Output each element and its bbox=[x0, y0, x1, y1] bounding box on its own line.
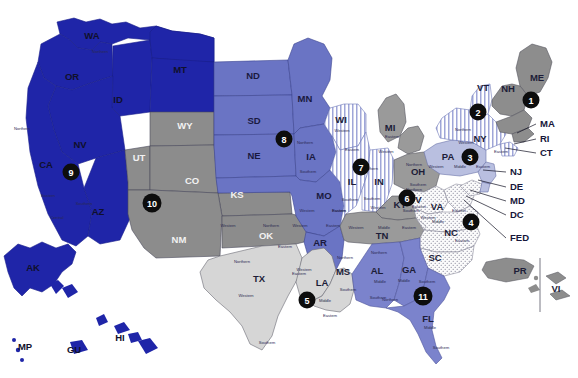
state-label-fl: FL bbox=[422, 313, 434, 324]
state-label-mp: MP bbox=[18, 341, 33, 352]
district-label-57: Eastern bbox=[494, 149, 509, 154]
district-label-4: Central bbox=[50, 215, 63, 220]
district-label-1: Eastern bbox=[41, 193, 56, 198]
district-label-28: Northern bbox=[382, 297, 399, 302]
state-label-oh: OH bbox=[411, 166, 425, 177]
badge-number-6: 6 bbox=[404, 194, 409, 204]
circuit-badge-9[interactable]: 9 bbox=[63, 164, 80, 181]
district-label-27: Southern bbox=[419, 279, 436, 284]
state-label-vi: VI bbox=[552, 283, 561, 294]
circuit-badge-7[interactable]: 7 bbox=[353, 159, 370, 176]
district-label-37: Eastern bbox=[385, 134, 400, 139]
state-label-ks: KS bbox=[230, 189, 243, 200]
district-label-54: Eastern bbox=[476, 164, 491, 169]
district-label-11: Western bbox=[220, 223, 236, 228]
state-label-co: CO bbox=[185, 175, 199, 186]
district-label-38: Western bbox=[378, 149, 394, 154]
district-label-12: Northern bbox=[263, 223, 280, 228]
state-label-mt: MT bbox=[173, 64, 187, 75]
district-label-51: Eastern bbox=[455, 238, 470, 243]
state-label-ok: OK bbox=[259, 230, 273, 241]
district-label-43: Western bbox=[348, 225, 364, 230]
state-label-ny: NY bbox=[473, 133, 487, 144]
callout-label-md: MD bbox=[510, 195, 525, 206]
state-label-mn: MN bbox=[298, 93, 313, 104]
district-label-36: Southern bbox=[364, 196, 381, 201]
state-label-sc: SC bbox=[428, 252, 441, 263]
district-label-3: Southern bbox=[76, 201, 93, 206]
circuit-map: NorthernEasternNorthernSouthernCentralNo… bbox=[0, 0, 578, 378]
state-label-or: OR bbox=[65, 71, 79, 82]
state-label-ms: MS bbox=[336, 266, 350, 277]
state-label-mo: MO bbox=[316, 190, 331, 201]
district-label-49: Eastern bbox=[452, 208, 467, 213]
state-label-vt: VT bbox=[477, 82, 489, 93]
district-label-31: Western bbox=[334, 128, 350, 133]
state-label-la: LA bbox=[316, 277, 329, 288]
badge-number-5: 5 bbox=[304, 296, 309, 306]
state-label-ia: IA bbox=[306, 151, 316, 162]
state-label-hi: HI bbox=[115, 332, 125, 343]
circuit-badge-10[interactable]: 10 bbox=[143, 194, 162, 213]
state-label-gu: GU bbox=[67, 344, 81, 355]
district-label-26: Middle bbox=[398, 278, 411, 283]
district-label-5: Northern bbox=[297, 140, 314, 145]
state-label-tn: TN bbox=[376, 230, 389, 241]
district-label-32: Eastern bbox=[345, 147, 360, 152]
district-label-21: Northern bbox=[337, 255, 354, 260]
state-label-nc: NC bbox=[444, 227, 458, 238]
badge-number-11: 11 bbox=[418, 292, 428, 302]
state-label-nv: NV bbox=[73, 139, 87, 150]
state-label-nd: ND bbox=[246, 70, 260, 81]
badge-number-2: 2 bbox=[475, 108, 480, 118]
state-label-mi: MI bbox=[385, 122, 396, 133]
state-label-ar: AR bbox=[313, 237, 327, 248]
callout-label-dc: DC bbox=[510, 209, 524, 220]
state-label-ne: NE bbox=[247, 150, 260, 161]
circuit-badge-3[interactable]: 3 bbox=[462, 149, 479, 166]
district-label-13: Eastern bbox=[278, 244, 293, 249]
district-label-41: Western bbox=[370, 205, 386, 210]
state-label-nh: NH bbox=[501, 83, 515, 94]
state-label-ut: UT bbox=[133, 152, 146, 163]
district-label-0: Northern bbox=[14, 126, 31, 131]
circuit-badge-4[interactable]: 4 bbox=[463, 214, 480, 231]
district-label-50: Middle bbox=[432, 219, 445, 224]
state-label-sd: SD bbox=[247, 115, 260, 126]
district-label-56: Western bbox=[458, 140, 474, 145]
district-label-33: Southern bbox=[342, 197, 359, 202]
district-label-34: Eastern bbox=[332, 208, 347, 213]
state-label-wa: WA bbox=[84, 30, 99, 41]
circuit-badge-5[interactable]: 5 bbox=[299, 292, 316, 309]
badge-number-1: 1 bbox=[528, 96, 533, 106]
state-label-me: ME bbox=[530, 72, 544, 83]
circuit-badge-6[interactable]: 6 bbox=[399, 190, 416, 207]
state-label-al: AL bbox=[371, 265, 384, 276]
badge-number-9: 9 bbox=[68, 168, 73, 178]
district-label-20: Eastern bbox=[323, 313, 338, 318]
state-label-il: IL bbox=[348, 176, 357, 187]
district-label-16: Western bbox=[238, 293, 254, 298]
badge-number-7: 7 bbox=[358, 163, 363, 173]
state-label-nm: NM bbox=[172, 234, 187, 245]
callout-label-ri: RI bbox=[540, 133, 550, 144]
callout-label-fed: FED bbox=[510, 232, 529, 243]
district-label-29: Middle bbox=[424, 325, 437, 330]
circuit-badge-11[interactable]: 11 bbox=[414, 287, 433, 306]
callout-label-ma: MA bbox=[540, 118, 555, 129]
district-label-22: Southern bbox=[340, 287, 357, 292]
district-label-30: Southern bbox=[433, 345, 450, 350]
state-label-pa: PA bbox=[442, 151, 455, 162]
state-label-ga: GA bbox=[402, 264, 416, 275]
district-label-24: Middle bbox=[374, 279, 387, 284]
state-label-az: AZ bbox=[92, 206, 105, 217]
state-label-wi: WI bbox=[335, 114, 347, 125]
circuit-badge-8[interactable]: 8 bbox=[276, 131, 293, 148]
circuit-badge-1[interactable]: 1 bbox=[523, 92, 540, 109]
badge-number-8: 8 bbox=[281, 135, 286, 145]
badge-number-10: 10 bbox=[147, 199, 157, 209]
district-label-55: Northern bbox=[455, 127, 472, 132]
state-label-ca: CA bbox=[39, 159, 53, 170]
state-label-in: IN bbox=[374, 176, 384, 187]
circuit-badge-2[interactable]: 2 bbox=[470, 104, 487, 121]
